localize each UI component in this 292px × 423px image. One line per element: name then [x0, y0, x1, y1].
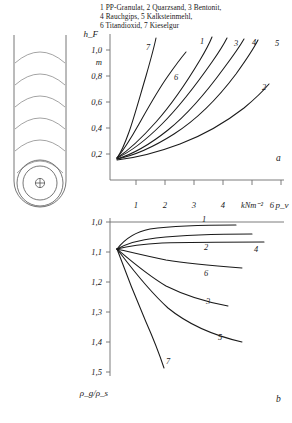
panel-b-curve-3: [117, 249, 228, 306]
x-axis-label: p_v: [275, 200, 289, 210]
panel-a-curve-label-1: 1: [200, 37, 204, 46]
panel-b-curve-label-7: 7: [166, 357, 171, 366]
panel-b-curve-label-1: 1: [202, 215, 206, 224]
stress-arch-4: [15, 118, 65, 129]
x-tick-1: 1: [134, 200, 138, 210]
panel-a-ytick-4: 0,4: [91, 123, 102, 133]
panel-b-y-ticks: [106, 222, 110, 372]
panel-a-curve-7: [117, 38, 156, 158]
stress-arch-2: [15, 74, 65, 85]
legend-line-1: 1 PP-Granulat, 2 Quarzsand, 3 Bentonit,: [100, 3, 290, 12]
panel-a-curve-label-6: 6: [174, 73, 179, 82]
panel-a-ytick-2: 0,8: [91, 71, 102, 81]
panel-a-curve-label-2: 2: [262, 83, 266, 92]
stress-arch-5: [15, 140, 65, 151]
x-tick-4: 4: [221, 200, 226, 210]
panel-a-label: a: [276, 153, 281, 163]
panel-a-ytick-5: 0,2: [91, 149, 102, 159]
panel-b-curve-label-5: 5: [218, 333, 222, 342]
panel-a-curve-4: [117, 39, 244, 159]
panel-b-ytick-0: 1,0: [91, 217, 102, 227]
panel-b-ytick-2: 1,2: [91, 277, 102, 287]
panel-b-curve-4: [117, 242, 264, 249]
panel-a-curve-label-3: 3: [233, 39, 238, 48]
panel-a-ytick-3: 0,6: [91, 97, 102, 107]
panel-a-x-ticks: [136, 180, 281, 185]
panel-b-curves: [117, 225, 264, 368]
silo-schematic: [4, 33, 76, 228]
panel-a-ytick-0: 1,0: [91, 45, 102, 55]
x-tick-3: 3: [191, 200, 196, 210]
panel-b-curve-7: [117, 249, 164, 368]
panel-b-curve-5: [117, 249, 242, 342]
figure-root: 1 PP-Granulat, 2 Quarzsand, 3 Bentonit, …: [0, 0, 292, 423]
panel-a-yunit: m: [96, 57, 102, 67]
panel-a-curve-label-5: 5: [275, 39, 279, 48]
panel-a-curve-3: [117, 38, 227, 158]
legend-line-2: 4 Rauchgips, 5 Kalksteinmehl,: [100, 12, 290, 21]
x-tick-6: 6: [270, 200, 275, 210]
panel-a-y-ticks: [106, 50, 110, 154]
panel-b-ytick-4: 1,4: [91, 337, 102, 347]
legend: 1 PP-Granulat, 2 Quarzsand, 3 Bentonit, …: [100, 3, 290, 31]
stress-arch-3: [15, 96, 65, 107]
panel-a-curve-label-4: 4: [252, 38, 256, 47]
x-tick-2: 2: [163, 200, 168, 210]
stress-arch-1: [15, 52, 65, 63]
panel-b-curve-label-2: 2: [204, 243, 208, 252]
panel-b-curve-label-3: 3: [205, 297, 210, 306]
panel-a-curves: [117, 37, 269, 160]
panel-a-y-axis-label: h_F: [84, 29, 99, 39]
panel-b-curve-label-4: 4: [254, 245, 258, 254]
shared-x-tick-labels: 1 2 3 4 kNm⁻² 6 p_v: [134, 200, 289, 210]
panel-b-curve-2: [117, 234, 252, 249]
panel-b-curve-label-6: 6: [204, 269, 209, 278]
chart-panel-b: 1 2 3 4 kNm⁻² 6 p_v: [76, 200, 290, 415]
x-axis-unit: kNm⁻²: [241, 201, 263, 210]
panel-a-curve-label-7: 7: [146, 43, 151, 52]
panel-b-y-axis-label: ρ_g/ρ_s: [79, 388, 109, 398]
panel-b-ytick-3: 1,3: [91, 307, 102, 317]
panel-b-label: b: [276, 394, 281, 404]
panel-b-ytick-5: 1,5: [91, 367, 102, 377]
panel-b-ytick-1: 1,1: [91, 247, 102, 257]
chart-panel-a: 1,0 m 0,8 0,6 0,4 0,2 h_F a: [76, 28, 290, 208]
